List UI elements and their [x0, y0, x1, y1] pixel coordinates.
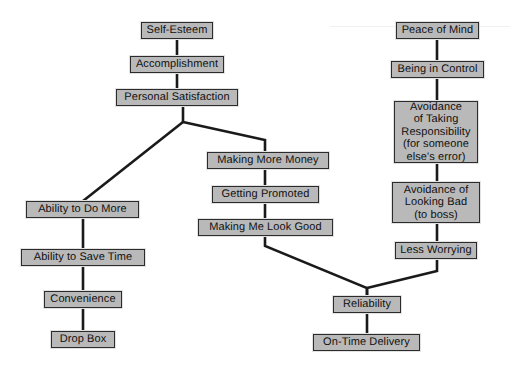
edge-making-me-look-good-to-reliability: [265, 236, 367, 296]
edge-less-worrying-to-reliability: [367, 259, 437, 296]
node-self-esteem[interactable]: Self-Esteem: [141, 22, 213, 39]
node-drop-box[interactable]: Drop Box: [51, 331, 115, 348]
edge-fork-to-ability-to-do-more: [83, 122, 183, 201]
node-less-worrying[interactable]: Less Worrying: [395, 242, 477, 259]
node-label: Getting Promoted: [222, 188, 310, 201]
node-peace-of-mind[interactable]: Peace of Mind: [396, 22, 479, 39]
node-label: Being in Control: [398, 63, 478, 76]
node-label: Avoidance of Looking Bad (to boss): [404, 184, 469, 222]
node-label: Drop Box: [60, 333, 107, 346]
node-label: On-Time Delivery: [323, 336, 410, 349]
node-label: Avoidance of Taking Responsibility (for …: [401, 101, 470, 164]
node-reliability[interactable]: Reliability: [333, 296, 401, 313]
node-label: Less Worrying: [400, 244, 471, 257]
node-ability-to-save-time[interactable]: Ability to Save Time: [21, 249, 145, 266]
node-label: Ability to Save Time: [34, 251, 133, 264]
node-accomplishment[interactable]: Accomplishment: [130, 56, 224, 73]
node-avoidance-of-looking-bad[interactable]: Avoidance of Looking Bad (to boss): [392, 182, 480, 223]
node-being-in-control[interactable]: Being in Control: [391, 61, 484, 78]
node-label: Peace of Mind: [402, 24, 474, 37]
node-label: Ability to Do More: [38, 203, 127, 216]
node-label: Making Me Look Good: [209, 221, 322, 234]
node-personal-satisfaction[interactable]: Personal Satisfaction: [116, 89, 238, 106]
node-label: Making More Money: [217, 154, 318, 167]
diagram-canvas: Self-EsteemAccomplishmentPersonal Satisf…: [0, 0, 511, 369]
node-making-more-money[interactable]: Making More Money: [207, 152, 329, 169]
node-label: Convenience: [50, 293, 115, 306]
node-convenience[interactable]: Convenience: [44, 291, 122, 308]
node-making-me-look-good[interactable]: Making Me Look Good: [198, 219, 333, 236]
node-label: Personal Satisfaction: [124, 91, 229, 104]
node-label: Reliability: [343, 298, 391, 311]
node-getting-promoted[interactable]: Getting Promoted: [212, 186, 319, 203]
node-on-time-delivery[interactable]: On-Time Delivery: [313, 334, 420, 351]
node-label: Self-Esteem: [146, 24, 207, 37]
edge-fork-to-making-more-money: [183, 122, 265, 152]
node-avoidance-of-taking-responsibility[interactable]: Avoidance of Taking Responsibility (for …: [394, 101, 478, 163]
node-label: Accomplishment: [136, 58, 218, 71]
node-ability-to-do-more[interactable]: Ability to Do More: [26, 201, 139, 218]
